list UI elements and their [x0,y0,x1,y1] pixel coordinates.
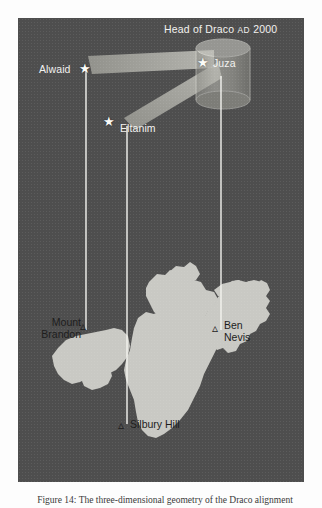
sky-map-graphics [18,18,304,482]
star-icon-juza: ★ [197,56,209,69]
figure-caption: Figure 14: The three-dimensional geometr… [34,494,296,508]
sky-map-panel [18,18,304,482]
peak-icon-silbury-hill: ▵ [118,419,124,431]
figure-root: Head of Draco AD 2000 Alwaid ★ ★ Juza ★ … [0,0,322,508]
landmark-label-silbury-hill: Silbury Hill [130,419,180,431]
star-label-juza: Juza [213,58,236,70]
figure-title-era: AD [237,25,250,35]
landmark-label-ben-nevis-line2: Nevis [224,332,250,344]
landmark-label-mount-brandon: Mount Brandon [35,317,81,341]
peak-icon-ben-nevis: ▵ [212,322,218,334]
figure-title-year: 2000 [253,23,277,35]
landmark-label-ben-nevis: Ben Nevis [224,320,250,344]
peak-icon-mount-brandon: ▵ [80,320,86,332]
star-label-alwaid: Alwaid [39,64,71,76]
beam-alwaid [88,50,214,74]
figure-title-main: Head of Draco [164,23,234,35]
star-label-eltanim: Eltanim [120,123,156,135]
star-icon-eltanim: ★ [103,115,115,128]
draco-cylinder [196,39,250,109]
star-icon-alwaid: ★ [79,62,91,75]
landmark-label-mount-brandon-line2: Brandon [35,329,81,341]
figure-title: Head of Draco AD 2000 [164,24,277,37]
